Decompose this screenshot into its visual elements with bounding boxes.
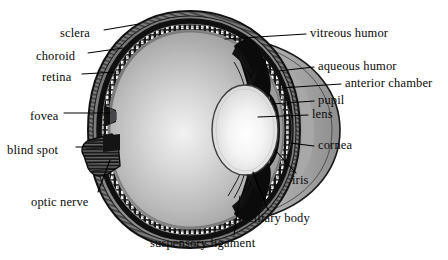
optic-nerve-bundle (82, 134, 120, 176)
label-choroid: choroid (36, 50, 75, 63)
label-fovea: fovea (30, 110, 59, 123)
label-blind-spot: blind spot (7, 144, 58, 157)
lens-shape (212, 85, 278, 175)
label-ciliary-body: ciliary body (248, 212, 310, 225)
label-cornea: cornea (318, 139, 352, 152)
label-aqueous-humor: aqueous humor (318, 60, 397, 73)
blind-spot-marker (103, 134, 120, 152)
eye-anatomy-figure: sclerachoroidretinafoveablind spotoptic … (0, 0, 448, 260)
label-iris: iris (292, 174, 309, 187)
label-suspensory: suspensory ligament (150, 237, 255, 250)
label-retina: retina (42, 71, 71, 84)
label-optic-nerve: optic nerve (31, 196, 89, 209)
label-lens: lens (312, 108, 333, 121)
label-pupil: pupil (318, 94, 344, 107)
label-vitreous-humor: vitreous humor (310, 27, 388, 40)
label-anterior-chamber: anterior chamber (345, 77, 432, 90)
label-sclera: sclera (60, 27, 90, 40)
